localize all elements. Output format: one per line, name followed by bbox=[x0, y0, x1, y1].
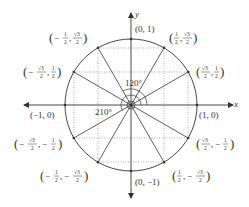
label-150deg: ( − √3 2 , 1 2 ) bbox=[23, 64, 61, 79]
svg-text:,: , bbox=[180, 33, 182, 43]
svg-text:1: 1 bbox=[224, 137, 227, 143]
label-0-neg1: (0, −1) bbox=[135, 177, 160, 187]
svg-text:2: 2 bbox=[178, 177, 181, 183]
svg-text:): ) bbox=[58, 136, 62, 151]
svg-text:(: ( bbox=[23, 64, 27, 79]
unit-circle-diagram: x y 120° 210° (0, 1) (1, 0) (−1, 0) (0, … bbox=[0, 0, 249, 207]
angle-label-120: 120° bbox=[125, 78, 143, 88]
svg-text:): ) bbox=[57, 64, 61, 79]
svg-text:√3: √3 bbox=[202, 65, 208, 71]
svg-text:√3: √3 bbox=[29, 137, 35, 143]
svg-text:√3: √3 bbox=[74, 169, 80, 175]
svg-text:): ) bbox=[220, 64, 224, 79]
label-60deg: ( 1 2 , √3 2 ) bbox=[169, 30, 197, 45]
svg-text:2: 2 bbox=[76, 39, 79, 45]
svg-text:(: ( bbox=[196, 64, 200, 79]
svg-text:2: 2 bbox=[31, 145, 34, 151]
svg-text:): ) bbox=[193, 30, 197, 45]
svg-text:−: − bbox=[64, 171, 69, 181]
label-0-1: (0, 1) bbox=[135, 24, 155, 34]
label-210deg: ( − √3 2 , − 1 2 ) bbox=[14, 136, 62, 151]
svg-text:−: − bbox=[54, 33, 59, 43]
label-1-0: (1, 0) bbox=[199, 110, 219, 120]
svg-text:(: ( bbox=[169, 30, 173, 45]
svg-text:√3: √3 bbox=[38, 65, 44, 71]
svg-text:(: ( bbox=[14, 136, 18, 151]
svg-text:√3: √3 bbox=[184, 31, 190, 37]
svg-text:2: 2 bbox=[204, 73, 207, 79]
svg-text:,: , bbox=[211, 139, 213, 149]
svg-text:): ) bbox=[206, 168, 210, 183]
svg-text:−: − bbox=[28, 67, 33, 77]
origin-dot bbox=[129, 103, 132, 106]
svg-text:,: , bbox=[183, 171, 185, 181]
svg-text:2: 2 bbox=[204, 145, 207, 151]
svg-text:): ) bbox=[84, 168, 88, 183]
svg-text:−: − bbox=[19, 139, 24, 149]
svg-text:−: − bbox=[187, 171, 192, 181]
x-axis-label: x bbox=[233, 99, 238, 109]
svg-text:1: 1 bbox=[215, 65, 218, 71]
svg-text:): ) bbox=[230, 136, 234, 151]
svg-text:2: 2 bbox=[215, 73, 218, 79]
y-axis-label: y bbox=[134, 9, 139, 19]
svg-text:,: , bbox=[60, 171, 62, 181]
svg-text:,: , bbox=[38, 139, 40, 149]
svg-text:(: ( bbox=[196, 136, 200, 151]
svg-text:(: ( bbox=[172, 168, 176, 183]
svg-text:2: 2 bbox=[76, 177, 79, 183]
svg-text:−: − bbox=[215, 139, 220, 149]
svg-text:,: , bbox=[47, 67, 49, 77]
svg-text:−: − bbox=[45, 171, 50, 181]
svg-text:2: 2 bbox=[186, 39, 189, 45]
svg-text:√3: √3 bbox=[197, 169, 203, 175]
angle-label-210: 210° bbox=[95, 107, 113, 117]
svg-text:2: 2 bbox=[199, 177, 202, 183]
svg-text:√3: √3 bbox=[74, 31, 80, 37]
svg-text:(: ( bbox=[40, 168, 44, 183]
svg-text:1: 1 bbox=[178, 169, 181, 175]
svg-text:1: 1 bbox=[55, 169, 58, 175]
label-120deg: ( − 1 2 , √3 2 ) bbox=[49, 30, 87, 45]
svg-text:2: 2 bbox=[55, 177, 58, 183]
svg-text:2: 2 bbox=[52, 73, 55, 79]
label-neg1-0: (−1, 0) bbox=[30, 110, 55, 120]
svg-text:−: − bbox=[42, 139, 47, 149]
label-330deg: ( √3 2 , − 1 2 ) bbox=[196, 136, 234, 151]
svg-text:1: 1 bbox=[175, 31, 178, 37]
label-300deg: ( 1 2 , − √3 2 ) bbox=[172, 168, 210, 183]
svg-text:,: , bbox=[211, 67, 213, 77]
svg-text:(: ( bbox=[49, 30, 53, 45]
svg-text:1: 1 bbox=[52, 137, 55, 143]
svg-text:2: 2 bbox=[40, 73, 43, 79]
label-30deg: ( √3 2 , 1 2 ) bbox=[196, 64, 224, 79]
svg-text:2: 2 bbox=[224, 145, 227, 151]
label-240deg: ( − 1 2 , − √3 2 ) bbox=[40, 168, 88, 183]
svg-text:√3: √3 bbox=[202, 137, 208, 143]
svg-text:2: 2 bbox=[175, 39, 178, 45]
svg-text:1: 1 bbox=[52, 65, 55, 71]
svg-text:2: 2 bbox=[52, 145, 55, 151]
svg-text:1: 1 bbox=[64, 31, 67, 37]
svg-text:): ) bbox=[83, 30, 87, 45]
svg-text:,: , bbox=[69, 33, 71, 43]
svg-text:2: 2 bbox=[64, 39, 67, 45]
